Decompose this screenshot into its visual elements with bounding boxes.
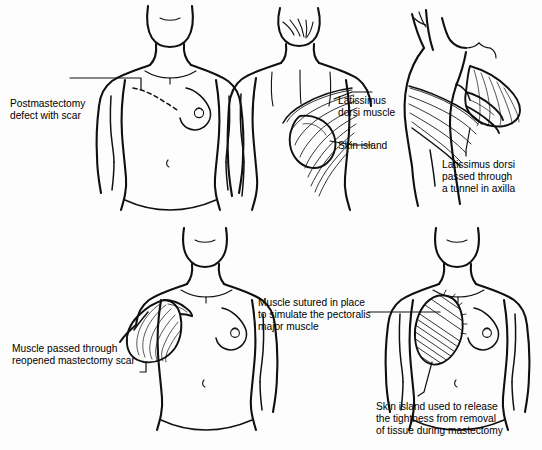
panel-flap-sutured: Muscle sutured in place to simulate the … [0,0,529,436]
label-sutured-pectoralis: Muscle sutured in place to simulate the … [0,0,391,332]
panel-postmastectomy-front: Postmastectomy defect with scar [0,0,243,210]
medical-illustration: Postmastectomy defect with scar [0,0,542,450]
label-release-tightness: Skin island used to release the tightnes… [0,0,518,436]
label-tunnel-axilla: Latissimus dorsi passed through a tunnel… [0,0,535,194]
sutured-muscle-flap [408,284,470,376]
panel-flap-through-scar: Muscle passed through reopened mastectom… [0,0,277,430]
flap-fan [465,66,520,133]
label-postmastectomy: Postmastectomy defect with scar [0,0,105,121]
muscle-hatching [408,284,470,376]
